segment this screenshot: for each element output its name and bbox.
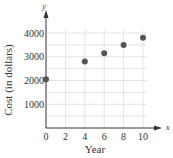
y-tick-labels: 1000200030004000 — [24, 28, 44, 110]
scatter-chart: y x 0246810 1000200030004000 Year Cost (… — [0, 0, 173, 158]
y-tick-label: 1000 — [24, 99, 44, 110]
y-tick-label: 2000 — [24, 75, 44, 86]
data-point — [101, 50, 107, 56]
x-axis-symbol: x — [165, 123, 170, 132]
axes: y x — [41, 2, 170, 132]
data-point — [43, 76, 49, 82]
y-tick-label: 3000 — [24, 51, 44, 62]
x-tick-label: 10 — [138, 131, 148, 142]
y-axis-symbol: y — [41, 2, 46, 11]
grid-lines — [46, 30, 147, 128]
data-point — [82, 59, 88, 65]
y-tick-label: 4000 — [24, 28, 44, 39]
x-tick-labels: 0246810 — [44, 131, 149, 142]
y-axis-arrow-icon — [44, 10, 49, 18]
data-point — [121, 42, 127, 48]
x-tick-label: 4 — [82, 131, 87, 142]
x-tick-label: 2 — [63, 131, 68, 142]
x-axis-arrow-icon — [154, 126, 162, 131]
y-axis-label: Cost (in dollars) — [2, 44, 15, 116]
x-tick-label: 6 — [102, 131, 107, 142]
x-tick-label: 8 — [121, 131, 126, 142]
x-axis-label: Year — [85, 143, 106, 155]
data-point — [140, 35, 146, 41]
data-points — [43, 35, 146, 83]
x-tick-label: 0 — [44, 131, 49, 142]
